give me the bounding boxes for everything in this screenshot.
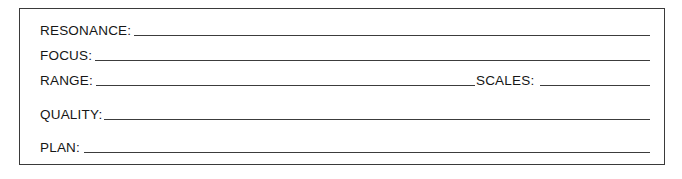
range-input[interactable]: [96, 85, 475, 86]
resonance-input-field[interactable]: [134, 19, 650, 33]
quality-input[interactable]: [104, 119, 650, 120]
scales-input[interactable]: [540, 85, 650, 86]
plan-input-field[interactable]: [84, 136, 650, 150]
focus-input-field[interactable]: [95, 44, 650, 58]
plan-input[interactable]: [84, 152, 650, 153]
field-row-plan: PLAN:: [40, 139, 650, 155]
resonance-input[interactable]: [134, 35, 650, 36]
field-label-plan: PLAN:: [40, 141, 80, 155]
field-label-scales: SCALES:: [476, 74, 534, 88]
range-input-field[interactable]: [96, 69, 475, 83]
field-row-range-scales: RANGE: SCALES:: [40, 72, 650, 88]
scales-input-field[interactable]: [540, 69, 650, 83]
quality-input-field[interactable]: [104, 103, 650, 117]
focus-input[interactable]: [95, 60, 650, 61]
field-label-focus: FOCUS:: [40, 49, 92, 63]
field-row-resonance: RESONANCE:: [40, 22, 650, 38]
field-label-range: RANGE:: [40, 74, 93, 88]
field-label-resonance: RESONANCE:: [40, 24, 131, 38]
field-row-focus: FOCUS:: [40, 47, 650, 63]
field-row-quality: QUALITY:: [40, 106, 650, 122]
field-label-quality: QUALITY:: [40, 108, 102, 122]
